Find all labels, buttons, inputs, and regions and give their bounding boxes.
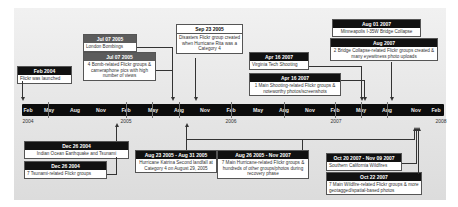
event-card-shooting-groups: Apr 16 2007 1 Main Shooting-related Flic… [249, 73, 341, 96]
event-date: Oct 22 2007 [327, 173, 421, 181]
event-description: 1 Main Shooting-related Flickr groups & … [250, 82, 340, 95]
event-description: Hurricane Katrina Second landfall at Cat… [136, 159, 216, 172]
connector-line [116, 126, 117, 141]
connector-line [137, 47, 172, 48]
year-label: 2004 [22, 118, 33, 124]
tick-label: Aug [70, 104, 80, 116]
tick-label: Nov [200, 104, 210, 116]
event-date: Aug 01 2007 [333, 20, 420, 28]
arrow-up-icon [185, 123, 189, 127]
event-description: 7 Tsunami-related Flickr groups [25, 170, 106, 178]
connector-line [172, 47, 173, 99]
event-card-flickr-launch: Feb 2004 Flickr was launched [17, 66, 72, 84]
tick-label: May [44, 104, 54, 116]
event-date: Jul 07 2005 [84, 35, 136, 43]
connector-line [416, 130, 417, 163]
event-description: Indian Ocean Earthquake and Tsunami [25, 150, 128, 158]
event-date: Apr 16 2007 [250, 74, 340, 82]
connector-line [302, 139, 303, 150]
connector-line [116, 157, 117, 174]
tick-label: Feb [431, 104, 440, 116]
connector-line [303, 139, 414, 140]
event-card-hurricane-katrina: Aug 23 2005 - Aug 31 2005 Hurricane Katr… [135, 150, 217, 173]
event-date: Jul 07 2005 [84, 53, 155, 61]
connector-line [309, 66, 361, 67]
event-card-wildfires: Oct 20 2007 - Nov 09 2007 Southern Calif… [326, 153, 402, 171]
event-description: Minneapolis I-35W Bridge Collapse [333, 28, 420, 36]
event-date: Aug 2007 [331, 39, 437, 47]
event-card-tsunami: Dec 26 2004 Indian Ocean Earthquake and … [24, 141, 129, 159]
event-date: Apr 16 2007 [250, 53, 308, 61]
event-card-disasters-group: Sep 23 2005 Disasters Flickr group creat… [176, 24, 243, 54]
tick-mark [335, 102, 336, 118]
year-label: 2007 [330, 118, 341, 124]
event-card-bomb-groups: Jul 07 2005 4 Bomb-related Flickr groups… [83, 52, 156, 81]
event-card-london-bombings: Jul 07 2005 London Bombings [83, 34, 137, 52]
connector-line [414, 130, 415, 140]
event-date: Dec 26 2004 [25, 142, 128, 150]
event-date: Aug 23 2005 - Aug 31 2005 [136, 151, 216, 159]
event-date: Feb 2004 [18, 67, 71, 75]
arrow-up-icon [417, 127, 421, 131]
connector-line [391, 62, 392, 99]
arrow-down-icon [390, 97, 394, 101]
event-description: Flickr was launched [18, 75, 71, 83]
tick-label: Nov [96, 104, 106, 116]
arrow-up-icon [115, 123, 119, 127]
arrow-down-icon [171, 97, 175, 101]
event-date: Oct 20 2007 - Nov 09 2007 [327, 154, 401, 162]
event-description: London Bombings [84, 43, 136, 51]
timeline-axis: Feb May Aug Nov Feb May Aug Nov Feb May … [22, 104, 444, 116]
tick-mark [126, 102, 127, 118]
connector-line [402, 163, 417, 164]
tick-label: Nov [305, 104, 315, 116]
connector-line [195, 58, 196, 99]
event-description: Southern California Wildfires [327, 162, 401, 170]
tick-mark [361, 102, 362, 118]
arrow-down-icon [363, 97, 367, 101]
connector-line [418, 130, 419, 174]
event-card-bridge-groups: Aug 2007 2 Bridge Collapse-related Flick… [330, 38, 438, 61]
event-date: Sep 23 2005 [177, 25, 242, 34]
tick-label: May [253, 104, 263, 116]
event-card-hurricane-groups: Aug 26 2005 - Nov 2007 7 Main Hurricane-… [217, 150, 309, 179]
event-description: Disasters Flickr group created when Hurr… [177, 34, 242, 53]
event-description: 2 Bridge Collapse-related Flickr groups … [331, 47, 437, 60]
event-description: 7 Main Hurricane-related Flickr groups &… [218, 159, 308, 178]
connector-line [186, 126, 187, 150]
event-date: Dec 26 2004 [25, 162, 106, 170]
event-card-tsunami-groups: Dec 26 2004 7 Tsunami-related Flickr gro… [24, 161, 107, 179]
connector-line [107, 174, 117, 175]
event-description: Virginia Tech Shooting [250, 61, 308, 69]
event-card-wildfire-groups: Oct 22 2007 7 Main Wildfire-related Flic… [326, 172, 422, 195]
tick-label: May [148, 104, 158, 116]
event-date: Aug 26 2005 - Nov 2007 [218, 151, 308, 159]
arrow-down-icon [194, 97, 198, 101]
tick-mark [284, 102, 285, 118]
year-label: 2008 [435, 118, 446, 124]
connector-line [361, 66, 362, 99]
connector-line [341, 80, 364, 81]
tick-mark [48, 102, 49, 118]
tick-label: Nov [411, 104, 421, 116]
event-card-virginia-tech: Apr 16 2007 Virginia Tech Shooting [249, 52, 309, 70]
tick-mark [387, 102, 388, 118]
event-card-bridge-collapse: Aug 01 2007 Minneapolis I-35W Bridge Col… [332, 19, 421, 37]
event-description: 4 Bomb-related Flickr groups & camerapho… [84, 61, 155, 80]
connector-line [187, 139, 303, 140]
tick-mark [179, 102, 180, 118]
tick-label: Feb [23, 104, 32, 116]
event-description: 7 Main Wildfire-related Flickr groups & … [327, 181, 421, 194]
arrow-down-icon [21, 97, 25, 101]
year-label: 2005 [120, 118, 131, 124]
tick-mark [152, 102, 153, 118]
year-label: 2006 [225, 118, 236, 124]
tick-mark [231, 102, 232, 118]
connector-line [156, 70, 172, 71]
